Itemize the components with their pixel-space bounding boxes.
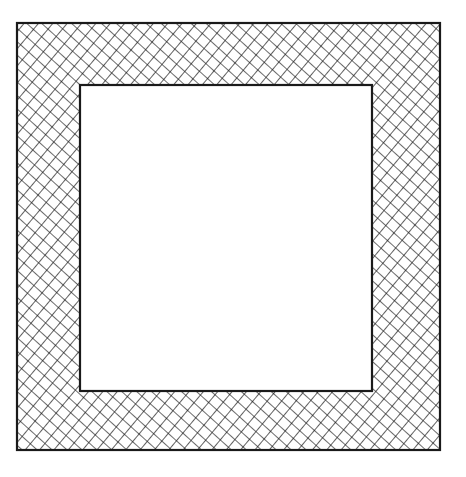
inner-square-opening	[80, 85, 372, 391]
crosshatched-frame-figure	[0, 0, 466, 477]
